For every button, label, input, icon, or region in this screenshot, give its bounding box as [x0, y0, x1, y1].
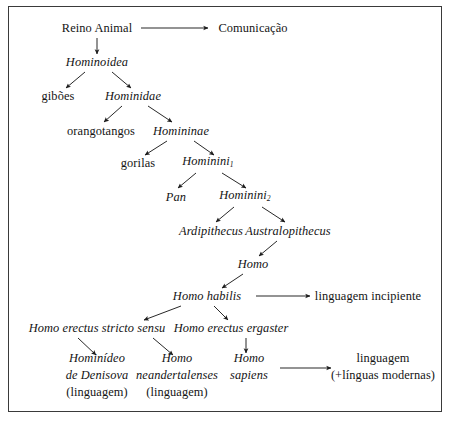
- node-homininae: Homininae: [153, 124, 209, 139]
- leaf-node-line: (linguagem): [136, 384, 218, 401]
- cladogram-figure: Reino AnimalComunicaçãoHominoideagibõesH…: [0, 0, 453, 431]
- node-homo: Homo: [238, 257, 269, 272]
- node-hominidae: Hominidae: [105, 89, 161, 104]
- node-subscript: 1: [230, 160, 234, 169]
- node-reino_animal: Reino Animal: [62, 21, 132, 36]
- node-homo_erectus_ergaster: Homo erectus ergaster: [174, 321, 289, 336]
- leaf-node-homo_sapiens: Homosapiens: [230, 350, 268, 384]
- edge-arrow: [112, 72, 131, 88]
- leaf-node-line: Homo: [230, 350, 268, 367]
- node-homo_erectus_stricto_sensu: Homo erectus stricto sensu: [29, 321, 166, 336]
- node-hominoidea: Hominoidea: [66, 55, 128, 70]
- edge-arrow: [145, 141, 167, 155]
- leaf-node-line: de Denisova: [66, 367, 129, 384]
- node-pan: Pan: [166, 190, 186, 205]
- leaf-node-linguagem_modernas: linguagem(+línguas modernas): [331, 350, 435, 384]
- edge-arrow: [216, 207, 234, 222]
- node-hominini_2: Hominini2: [219, 188, 271, 207]
- leaf-node-line: Hominídeo: [66, 350, 129, 367]
- leaf-node-line: linguagem: [331, 350, 435, 367]
- edge-arrow: [66, 72, 85, 88]
- node-subscript: 2: [267, 194, 271, 203]
- node-homo_habilis: Homo habilis: [173, 289, 241, 304]
- node-ardipithecus: Ardipithecus: [179, 224, 243, 239]
- leaf-node-homo_neandertalenses: Homoneandertalenses(linguagem): [136, 350, 218, 401]
- leaf-node-line: sapiens: [230, 367, 268, 384]
- edge-arrow: [104, 106, 122, 122]
- edge-arrow: [148, 106, 172, 122]
- leaf-node-line: Homo: [136, 350, 218, 367]
- node-linguagem_incipiente: linguagem incipiente: [315, 289, 421, 304]
- node-giboes: gibões: [42, 89, 75, 104]
- edge-arrow: [222, 173, 246, 188]
- node-gorilas: gorilas: [121, 156, 155, 171]
- node-comunicacao: Comunicação: [218, 21, 287, 36]
- leaf-node-line: (+línguas modernas): [331, 367, 435, 384]
- leaf-node-line: (linguagem): [66, 384, 129, 401]
- edge-arrow: [222, 274, 243, 288]
- edge-arrow: [214, 306, 228, 320]
- node-australopithecus: Australopithecus: [245, 224, 331, 239]
- edge-arrow: [262, 207, 285, 222]
- node-orangotangos: orangotangos: [67, 124, 135, 139]
- leaf-node-hominideo_denisova: Hominídeode Denisova(linguagem): [66, 350, 129, 401]
- edge-arrow: [178, 173, 196, 188]
- edge-arrow: [259, 241, 277, 256]
- leaf-node-line: neandertalenses: [136, 367, 218, 384]
- edge-arrow: [144, 306, 181, 320]
- node-hominini_1: Hominini1: [182, 154, 234, 173]
